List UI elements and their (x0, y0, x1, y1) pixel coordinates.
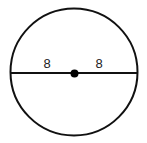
left-radius-label: 8 (43, 56, 50, 71)
center-point (71, 70, 79, 78)
right-radius-label: 8 (95, 56, 102, 71)
circle-diagram: 8 8 (0, 0, 147, 143)
